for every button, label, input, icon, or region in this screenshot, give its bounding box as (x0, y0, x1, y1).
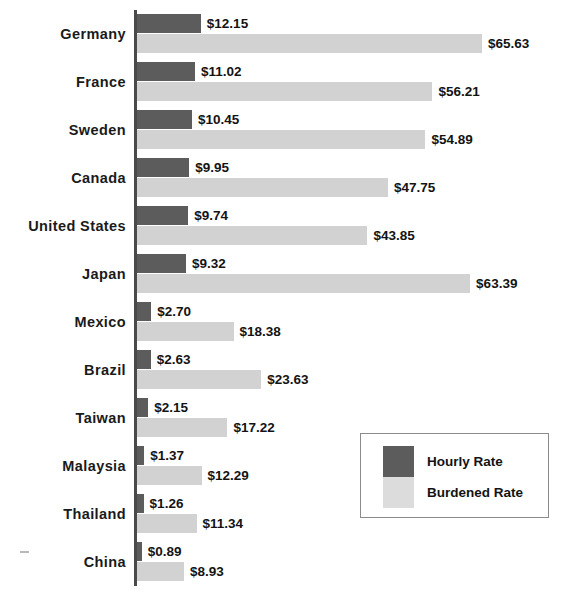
bar-value-label-hourly: $0.89 (148, 542, 182, 561)
bar-group: United States$9.74$43.85 (0, 202, 562, 250)
bar-burdened (137, 466, 202, 485)
category-label-germany: Germany (0, 23, 126, 45)
bar-hourly (137, 14, 201, 33)
bar-row-burdened: $63.39 (137, 274, 562, 293)
bar-row-burdened: $47.75 (137, 178, 562, 197)
bar-row-burdened: $43.85 (137, 226, 562, 245)
bar-value-label-burdened: $47.75 (394, 178, 435, 197)
bar-burdened (137, 178, 388, 197)
bar-group: Sweden$10.45$54.89 (0, 106, 562, 154)
category-label-sweden: Sweden (0, 119, 126, 141)
chart-legend: Hourly Rate Burdened Rate (360, 433, 549, 518)
bar-burdened (137, 514, 197, 533)
bar-burdened (137, 274, 470, 293)
bar-value-label-hourly: $2.70 (157, 302, 191, 321)
category-label-japan: Japan (0, 263, 126, 285)
bar-value-label-burdened: $65.63 (488, 34, 529, 53)
bar-value-label-burdened: $18.38 (240, 322, 281, 341)
bar-value-label-hourly: $10.45 (198, 110, 239, 129)
bar-burdened (137, 82, 432, 101)
bar-hourly (137, 62, 195, 81)
bar-value-label-burdened: $12.29 (208, 466, 249, 485)
bar-group: China$0.89$8.93 (0, 538, 562, 586)
bar-burdened (137, 418, 227, 437)
bar-burdened (137, 562, 184, 581)
category-label-thailand: Thailand (0, 503, 126, 525)
bar-value-label-burdened: $54.89 (431, 130, 472, 149)
bar-value-label-hourly: $9.95 (195, 158, 229, 177)
bar-row-hourly: $11.02 (137, 62, 562, 81)
legend-swatch-burdened-rate (383, 477, 414, 508)
bar-row-hourly: $9.74 (137, 206, 562, 225)
category-label-mexico: Mexico (0, 311, 126, 333)
bar-value-label-hourly: $2.15 (154, 398, 188, 417)
bar-hourly (137, 206, 188, 225)
bar-value-label-burdened: $23.63 (267, 370, 308, 389)
category-label-canada: Canada (0, 167, 126, 189)
bar-row-hourly: $9.32 (137, 254, 562, 273)
bar-hourly (137, 494, 144, 513)
bar-row-hourly: $2.15 (137, 398, 562, 417)
bar-value-label-hourly: $12.15 (207, 14, 248, 33)
bar-value-label-hourly: $2.63 (157, 350, 191, 369)
bar-group: Brazil$2.63$23.63 (0, 346, 562, 394)
bar-group: France$11.02$56.21 (0, 58, 562, 106)
bar-hourly (137, 110, 192, 129)
scan-artifact-speck (20, 551, 29, 553)
category-label-taiwan: Taiwan (0, 407, 126, 429)
bar-row-burdened: $65.63 (137, 34, 562, 53)
bar-group: Mexico$2.70$18.38 (0, 298, 562, 346)
bar-row-hourly: $2.70 (137, 302, 562, 321)
bar-value-label-hourly: $1.26 (150, 494, 184, 513)
bar-row-hourly: $0.89 (137, 542, 562, 561)
bar-value-label-burdened: $11.34 (203, 514, 244, 533)
bar-value-label-burdened: $56.21 (438, 82, 479, 101)
category-label-france: France (0, 71, 126, 93)
bar-group: Japan$9.32$63.39 (0, 250, 562, 298)
bar-hourly (137, 398, 148, 417)
bar-value-label-hourly: $9.74 (194, 206, 228, 225)
category-label-united-states: United States (0, 215, 126, 237)
bar-hourly (137, 542, 142, 561)
bar-burdened (137, 130, 425, 149)
bar-row-burdened: $56.21 (137, 82, 562, 101)
bar-row-burdened: $23.63 (137, 370, 562, 389)
bar-row-burdened: $18.38 (137, 322, 562, 341)
bar-hourly (137, 158, 189, 177)
bar-hourly (137, 254, 186, 273)
bar-value-label-burdened: $8.93 (190, 562, 224, 581)
bar-row-burdened: $54.89 (137, 130, 562, 149)
bar-burdened (137, 226, 367, 245)
bar-group: Germany$12.15$65.63 (0, 10, 562, 58)
bar-row-hourly: $2.63 (137, 350, 562, 369)
bar-group: Canada$9.95$47.75 (0, 154, 562, 202)
bar-hourly (137, 350, 151, 369)
bar-hourly (137, 446, 144, 465)
legend-label-burdened-rate: Burdened Rate (427, 477, 523, 508)
bar-chart: Germany$12.15$65.63France$11.02$56.21Swe… (0, 0, 562, 597)
bar-value-label-burdened: $17.22 (233, 418, 274, 437)
bar-value-label-burdened: $43.85 (373, 226, 414, 245)
bar-row-hourly: $9.95 (137, 158, 562, 177)
bar-value-label-burdened: $63.39 (476, 274, 517, 293)
category-label-brazil: Brazil (0, 359, 126, 381)
bar-burdened (137, 34, 482, 53)
bar-burdened (137, 322, 234, 341)
legend-label-hourly-rate: Hourly Rate (427, 446, 503, 477)
bar-row-hourly: $10.45 (137, 110, 562, 129)
bar-row-hourly: $12.15 (137, 14, 562, 33)
category-label-china: China (0, 551, 126, 573)
legend-swatch-hourly-rate (383, 446, 414, 477)
bar-value-label-hourly: $11.02 (201, 62, 242, 81)
bar-value-label-hourly: $9.32 (192, 254, 226, 273)
bar-hourly (137, 302, 151, 321)
category-label-malaysia: Malaysia (0, 455, 126, 477)
bar-row-burdened: $8.93 (137, 562, 562, 581)
bar-value-label-hourly: $1.37 (150, 446, 184, 465)
bar-burdened (137, 370, 261, 389)
